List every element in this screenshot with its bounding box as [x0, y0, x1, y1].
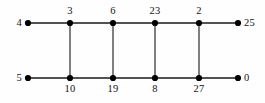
- vertex-label-t0: 4: [17, 18, 22, 29]
- vertex-label-b1: 10: [65, 84, 76, 95]
- graph-vertex-b3: [152, 75, 158, 81]
- vertices-layer: [25, 20, 241, 81]
- vertex-label-t1: 3: [67, 6, 72, 17]
- vertex-label-t3: 23: [150, 6, 161, 17]
- vertex-label-b3: 8: [152, 84, 157, 95]
- graph-vertex-t1: [67, 20, 73, 26]
- graph-vertex-b2: [110, 75, 116, 81]
- graph-vertex-t4: [196, 20, 202, 26]
- graph-vertex-t0: [25, 20, 31, 26]
- graph-vertex-t2: [110, 20, 116, 26]
- graph-vertex-b1: [67, 75, 73, 81]
- graph-vertex-b4: [196, 75, 202, 81]
- graph-figure: 43623225510198270: [0, 0, 265, 103]
- graph-vertex-b0: [25, 75, 31, 81]
- graph-canvas: [0, 0, 265, 103]
- vertex-label-t5: 25: [244, 18, 255, 29]
- vertex-label-b5: 0: [244, 73, 249, 84]
- graph-vertex-t3: [152, 20, 158, 26]
- graph-vertex-t5: [235, 20, 241, 26]
- vertex-label-b2: 19: [108, 84, 119, 95]
- vertex-label-t4: 2: [196, 6, 201, 17]
- edges-layer: [28, 23, 238, 78]
- vertex-label-b4: 27: [194, 84, 205, 95]
- vertex-label-t2: 6: [110, 6, 115, 17]
- graph-vertex-b5: [235, 75, 241, 81]
- vertex-label-b0: 5: [17, 73, 22, 84]
